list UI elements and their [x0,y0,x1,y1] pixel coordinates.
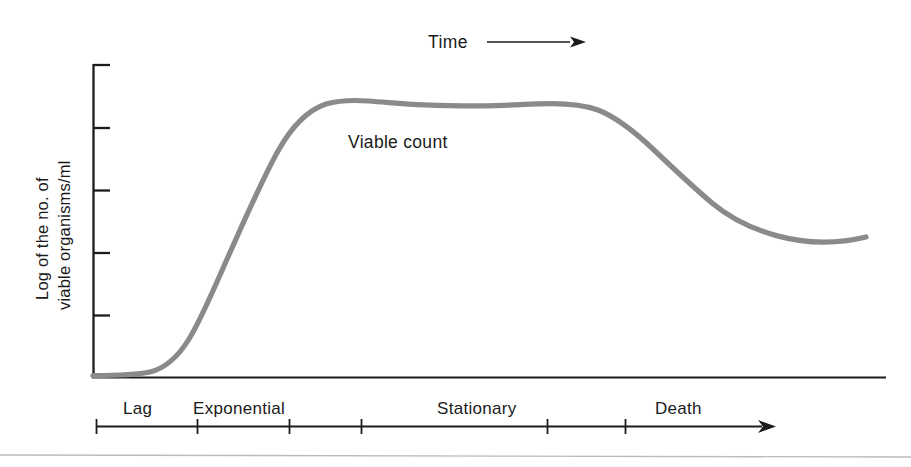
page-rule [0,455,911,457]
phase-label-exponential: Exponential [193,399,285,418]
phase-axis [96,419,776,434]
y-axis-label-line1: Log of the no. of [33,177,51,300]
y-axis [93,64,110,378]
growth-curve-svg: " heading ===== --> Time Log of the no. … [0,0,911,467]
time-label: Time [428,32,468,52]
time-axis-heading: Time [428,32,586,52]
y-axis-label-line2: viable organisms/ml [55,160,73,310]
phase-label-stationary: Stationary [437,399,517,418]
time-arrow-head [570,37,586,48]
phase-label-death: Death [655,399,702,418]
viable-count-label: Viable count [348,132,448,152]
viable-count-curve [93,100,866,375]
growth-curve-figure: " heading ===== --> Time Log of the no. … [0,0,911,467]
phase-labels: Lag Exponential Stationary Death [123,399,702,418]
phase-label-lag: Lag [123,399,152,418]
y-axis-label-group: Log of the no. of viable organisms/ml [33,160,73,310]
